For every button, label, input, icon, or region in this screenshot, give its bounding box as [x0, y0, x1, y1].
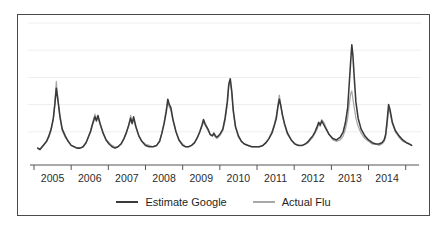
x-tick-label-2009: 2009: [189, 172, 213, 184]
x-tick-label-2006: 2006: [78, 172, 102, 184]
x-tick-label-2014: 2014: [375, 172, 399, 184]
gridlines-group: [28, 23, 421, 132]
chart-figure-frame: 2005200620072008200920102011201220132014…: [17, 14, 430, 216]
plot-area: [28, 19, 421, 171]
legend-label-actual-flu: Actual Flu: [282, 196, 331, 208]
legend-swatch-actual-flu-icon: [253, 201, 275, 203]
legend-item-actual-flu: Actual Flu: [253, 196, 331, 208]
figure-root: 2005200620072008200920102011201220132014…: [0, 0, 447, 230]
legend-swatch-estimate-google-icon: [116, 201, 138, 203]
data-series-group: [38, 45, 412, 150]
x-tick-label-2007: 2007: [115, 172, 139, 184]
legend-item-estimate-google: Estimate Google: [116, 196, 226, 208]
x-axis-ticks-group: [34, 165, 406, 170]
x-tick-label-2012: 2012: [301, 172, 325, 184]
legend-label-estimate-google: Estimate Google: [145, 196, 226, 208]
series-line-estimate-google: [38, 45, 412, 150]
x-axis-tick-labels: 2005200620072008200920102011201220132014: [28, 172, 421, 188]
x-tick-label-2013: 2013: [338, 172, 362, 184]
line-chart-svg: [28, 19, 421, 171]
x-tick-label-2010: 2010: [227, 172, 251, 184]
x-tick-label-2011: 2011: [264, 172, 287, 184]
x-tick-label-2008: 2008: [152, 172, 176, 184]
chart-legend: Estimate Google Actual Flu: [18, 191, 429, 213]
x-tick-label-2005: 2005: [41, 172, 65, 184]
